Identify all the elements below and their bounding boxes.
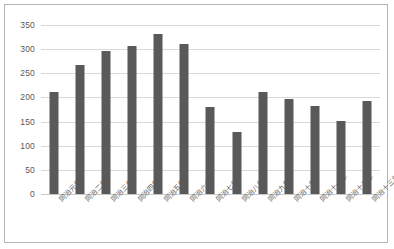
bar: [102, 51, 111, 194]
bar-slot: [119, 25, 145, 194]
bar: [50, 92, 59, 194]
bar-slot: [171, 25, 197, 194]
y-axis-tick-label: 350: [20, 21, 35, 30]
y-axis-tick-label: 150: [20, 117, 35, 126]
bar-slot: [67, 25, 93, 194]
bar-slot: [224, 25, 250, 194]
y-axis: 050100150200250300350: [5, 25, 39, 194]
y-axis-tick-label: 50: [25, 166, 35, 175]
bar: [154, 34, 163, 194]
bar-slot: [41, 25, 67, 194]
x-axis-tick-label: 同治十一年: [319, 198, 324, 203]
bar-slot: [328, 25, 354, 194]
x-axis-tick-label: 同治十三年: [371, 198, 376, 203]
bar-slot: [302, 25, 328, 194]
x-axis-tick-label: 同治八年: [241, 198, 246, 203]
bar-slot: [250, 25, 276, 194]
bar: [76, 65, 85, 194]
bar-slot: [145, 25, 171, 194]
x-axis-tick-label: 同治六年: [188, 198, 193, 203]
bar-slot: [93, 25, 119, 194]
x-axis: 同治元年同治二年同治三年同治四年同治五年同治六年同治七年同治八年同治九年同治十年…: [41, 196, 380, 244]
y-axis-tick-label: 0: [30, 190, 35, 199]
x-axis-tick-label: 同治元年: [58, 198, 63, 203]
x-axis-tick-label: 同治四年: [136, 198, 141, 203]
bar-slot: [354, 25, 380, 194]
chart-container: 050100150200250300350 同治元年同治二年同治三年同治四年同治…: [4, 4, 388, 243]
bar: [180, 44, 189, 194]
bar-slot: [197, 25, 223, 194]
y-axis-tick-label: 300: [20, 45, 35, 54]
bar: [128, 46, 137, 194]
y-axis-tick-label: 100: [20, 141, 35, 150]
x-axis-tick-label: 同治三年: [110, 198, 115, 203]
x-axis-tick-label: 同治十年: [293, 198, 298, 203]
x-axis-tick-label: 同治五年: [162, 198, 167, 203]
x-axis-tick-label: 同治九年: [267, 198, 272, 203]
bar-slot: [276, 25, 302, 194]
y-axis-tick-label: 200: [20, 93, 35, 102]
bar-series: [41, 25, 380, 194]
x-axis-tick-label: 同治七年: [215, 198, 220, 203]
x-axis-tick-label: 同治十二年: [345, 198, 350, 203]
y-axis-tick-label: 250: [20, 69, 35, 78]
x-axis-tick-label: 同治二年: [84, 198, 89, 203]
